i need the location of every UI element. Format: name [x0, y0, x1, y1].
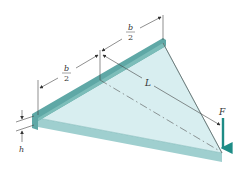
label-b-right: b: [128, 23, 133, 32]
dimension-b2-left-a: [40, 78, 58, 88]
label-2-left: 2: [64, 74, 69, 83]
label-b-left: b: [64, 64, 69, 73]
label-F: F: [218, 107, 226, 117]
dimension-b2-right-a: [102, 39, 122, 51]
label-h: h: [19, 145, 24, 154]
diagram-canvas: b 2 b 2 L F h: [0, 0, 240, 179]
dimension-b2-right-b: [140, 17, 161, 28]
cantilever-plate-diagram: b 2 b 2 L F h: [0, 0, 240, 179]
dimension-b2-left-b: [76, 55, 98, 68]
dimension-h-top-ext: [16, 116, 34, 122]
label-2-right: 2: [128, 33, 133, 42]
dimension-h-bottom-ext: [16, 125, 34, 131]
label-L: L: [144, 78, 151, 88]
